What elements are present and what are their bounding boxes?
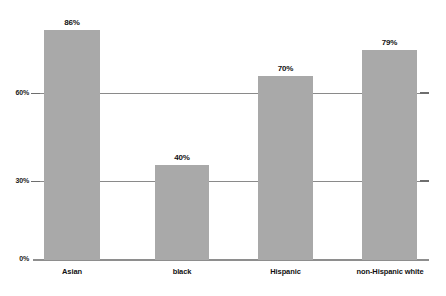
ytick-label-60: 60% (0, 89, 29, 97)
xtick-label-asian: Asian (44, 267, 100, 276)
ytick-dash-30 (31, 181, 40, 182)
ytick-label-0: 0% (0, 255, 29, 263)
ytick-dash-60 (31, 93, 40, 94)
gridline-stub-30 (420, 180, 429, 182)
bar-chart: 60% 30% 0% 86% Asian 40% black 70% Hispa… (0, 0, 446, 296)
bar-hispanic (258, 76, 313, 260)
bar-value-asian: 86% (44, 18, 100, 27)
bar-value-hispanic: 70% (258, 64, 313, 73)
xtick-label-hispanic: Hispanic (255, 267, 316, 276)
bar-value-black: 40% (155, 153, 209, 162)
xtick-label-non-hispanic-white: non-Hispanic white (345, 267, 435, 276)
ytick-label-30: 30% (0, 177, 29, 185)
bar-value-non-hispanic-white: 79% (362, 38, 417, 47)
xtick-label-black: black (155, 267, 209, 276)
bar-black (155, 165, 209, 260)
bar-asian (44, 30, 100, 260)
plot-area: 60% 30% 0% 86% Asian 40% black 70% Hispa… (0, 0, 446, 296)
bar-non-hispanic-white (362, 50, 417, 260)
gridline-stub-60 (420, 92, 429, 94)
